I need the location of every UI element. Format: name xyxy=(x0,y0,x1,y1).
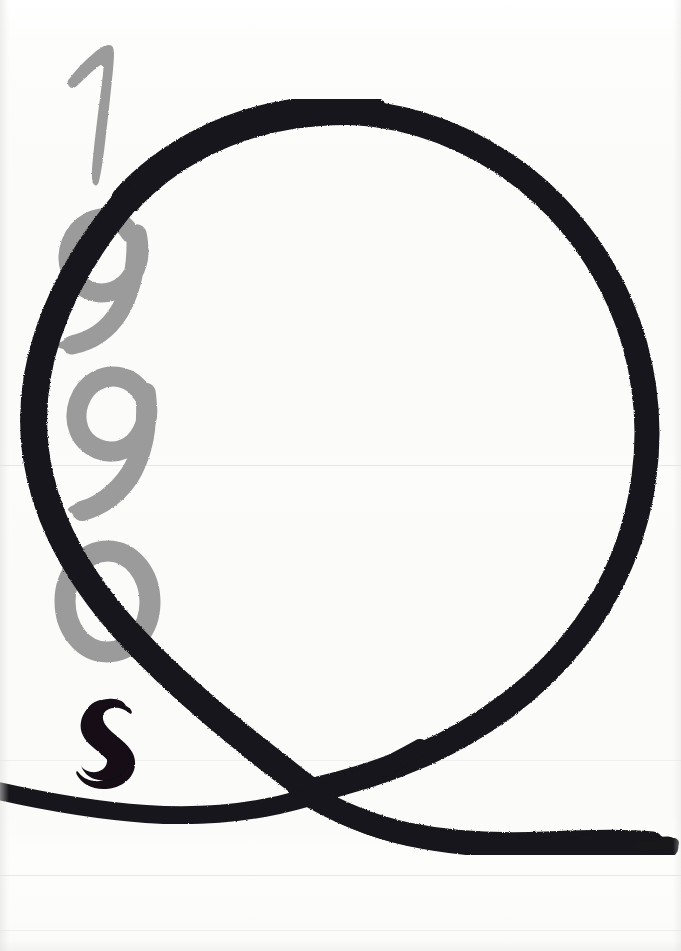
glyph-one xyxy=(68,45,114,185)
loop-upper-left-shoulder xyxy=(126,110,372,200)
loop-left-side xyxy=(33,198,318,797)
glyph-s xyxy=(76,699,135,789)
brush-artwork-canvas xyxy=(0,0,681,951)
tail-tip-taper xyxy=(640,843,674,846)
glyph-nine-lower xyxy=(68,377,150,515)
bottom-tail-stroke xyxy=(0,748,420,815)
artwork-page: 1990s 1 9 9 0 s xyxy=(0,0,681,951)
bottom-tail-right-extension xyxy=(318,800,668,848)
